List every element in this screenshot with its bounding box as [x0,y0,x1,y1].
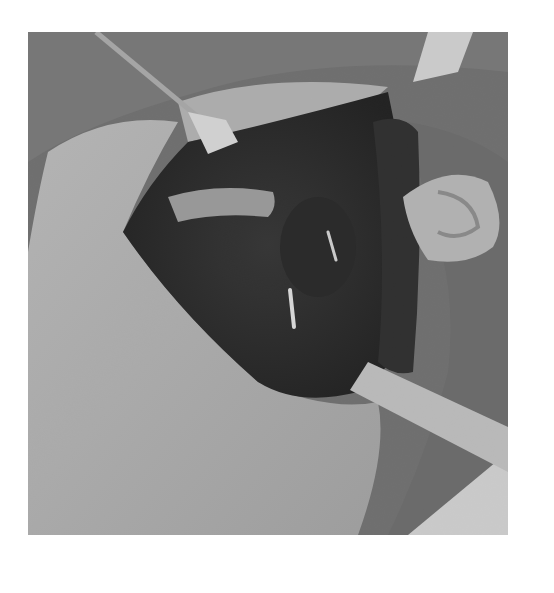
surgical-photo [28,32,508,535]
film-grain [28,32,508,535]
